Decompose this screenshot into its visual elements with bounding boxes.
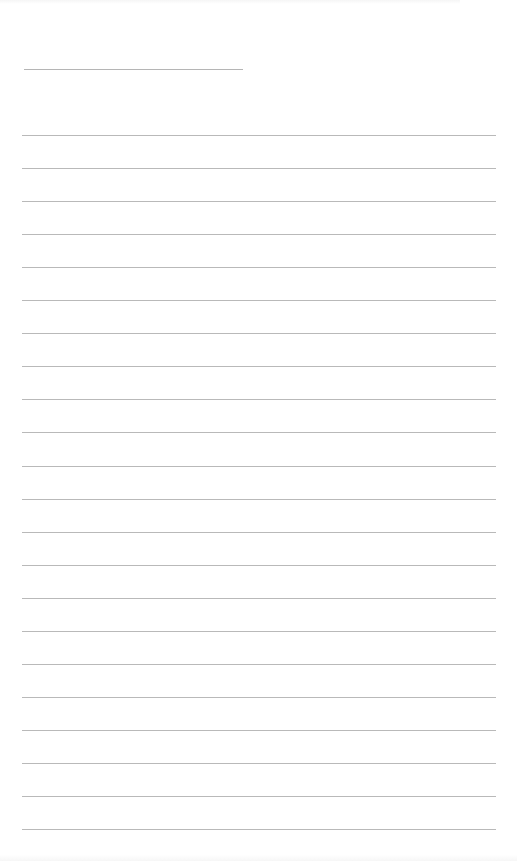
ruled-line[interactable] bbox=[22, 829, 496, 830]
ruled-line[interactable] bbox=[22, 730, 496, 731]
ruled-line[interactable] bbox=[22, 135, 496, 136]
ruled-line[interactable] bbox=[22, 499, 496, 500]
ruled-line[interactable] bbox=[22, 664, 496, 665]
ruled-line[interactable] bbox=[22, 532, 496, 533]
ruled-line[interactable] bbox=[22, 168, 496, 169]
ruled-line[interactable] bbox=[22, 366, 496, 367]
ruled-line[interactable] bbox=[22, 697, 496, 698]
ruled-line[interactable] bbox=[22, 763, 496, 764]
ruled-line[interactable] bbox=[22, 432, 496, 433]
ruled-line[interactable] bbox=[22, 234, 496, 235]
ruled-line[interactable] bbox=[22, 399, 496, 400]
ruled-line[interactable] bbox=[22, 631, 496, 632]
ruled-line[interactable] bbox=[22, 333, 496, 334]
ruled-line[interactable] bbox=[22, 466, 496, 467]
bottom-edge-bleed bbox=[0, 855, 517, 861]
ruled-line[interactable] bbox=[22, 565, 496, 566]
ruled-line[interactable] bbox=[22, 598, 496, 599]
ruled-line[interactable] bbox=[22, 201, 496, 202]
ruled-line[interactable] bbox=[22, 300, 496, 301]
ruled-writing-area bbox=[0, 0, 517, 861]
ruled-line[interactable] bbox=[22, 267, 496, 268]
ruled-line[interactable] bbox=[22, 796, 496, 797]
